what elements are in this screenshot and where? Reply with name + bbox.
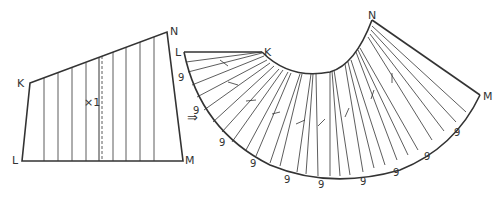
right-fan bbox=[184, 20, 480, 179]
label-m-left: M bbox=[185, 154, 195, 167]
spread-label: 9 bbox=[360, 176, 366, 187]
label-m-right: M bbox=[483, 90, 493, 103]
spread-label: 9 bbox=[250, 158, 256, 169]
left-trapezoid bbox=[22, 32, 183, 161]
spread-label: 9 bbox=[284, 174, 290, 185]
label-n-right: N bbox=[368, 9, 376, 22]
spread-label: 9 bbox=[318, 179, 324, 190]
spread-label: 9 bbox=[454, 127, 460, 138]
label-k-right: K bbox=[264, 46, 272, 59]
label-l-right: L bbox=[175, 46, 182, 59]
label-n-left: N bbox=[170, 25, 178, 38]
spread-label: 9 bbox=[193, 105, 199, 116]
label-k-left: K bbox=[17, 77, 25, 90]
pattern-diagram: K N L M ×1 ⇒ bbox=[0, 0, 497, 199]
spread-label: 9 bbox=[219, 137, 225, 148]
spread-label: 9 bbox=[393, 167, 399, 178]
label-l-left: L bbox=[12, 154, 19, 167]
spread-label: 9 bbox=[424, 151, 430, 162]
center-mark: ×1 bbox=[84, 96, 100, 109]
spread-label: 9 bbox=[178, 72, 184, 83]
